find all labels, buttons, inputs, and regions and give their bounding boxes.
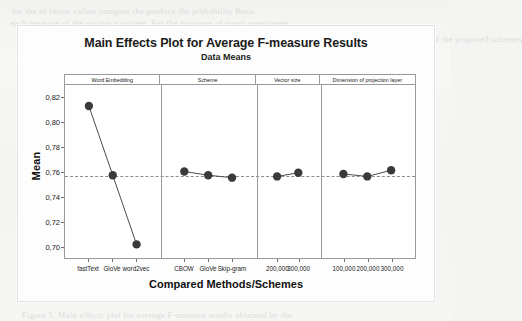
y-tick-mark	[61, 97, 64, 98]
panel-divider-2	[321, 85, 322, 258]
x-tick-mark	[208, 259, 209, 262]
x-tick-label: fastText	[77, 265, 99, 272]
data-point	[387, 166, 395, 174]
x-tick-mark	[299, 259, 300, 262]
x-tick-mark	[277, 259, 278, 262]
panel-header-label: Vector size	[274, 77, 300, 83]
y-tick-mark	[61, 197, 64, 198]
data-point	[132, 240, 140, 248]
chart-title: Main Effects Plot for Average F-measure …	[18, 36, 434, 50]
y-tick-mark	[61, 222, 64, 223]
y-axis-label: Mean	[30, 152, 42, 181]
data-point	[339, 170, 347, 178]
y-tick-mark	[61, 247, 64, 248]
data-point	[228, 174, 236, 182]
panel-header-label: Scheme	[198, 77, 218, 83]
x-tick-label: 300,000	[381, 265, 404, 272]
x-tick-mark	[88, 259, 89, 262]
x-tick-mark	[392, 259, 393, 262]
data-point	[204, 171, 212, 179]
x-tick-label: 200,000	[357, 265, 380, 272]
panel-divider-0	[161, 85, 162, 258]
panel-header-label: Dimension of projection layer	[333, 77, 403, 83]
data-point	[294, 169, 302, 177]
x-tick-label: CBOW	[174, 265, 194, 272]
panel-header-3: Dimension of projection layer	[320, 75, 415, 84]
x-tick-mark	[112, 259, 113, 262]
figure-card: Main Effects Plot for Average F-measure …	[17, 25, 435, 302]
panel-header-label: Word Embedding	[91, 77, 133, 83]
x-tick-label: Skip-gram	[218, 265, 247, 272]
data-point	[363, 172, 371, 180]
panel-header-1: Scheme	[160, 75, 255, 84]
x-tick-mark	[136, 259, 137, 262]
panel-header-2: Vector size	[256, 75, 320, 84]
x-axis-label: Compared Methods/Schemes	[18, 278, 434, 290]
y-tick-label: 0,74	[45, 192, 60, 201]
plot-area: Word EmbeddingSchemeVector sizeDimension…	[64, 74, 416, 259]
data-point	[273, 172, 281, 180]
x-tick-mark	[368, 259, 369, 262]
x-tick-label: 100,000	[333, 265, 356, 272]
data-point	[85, 102, 93, 110]
bleed-text-6: Figure 5. Main effects plot for average …	[22, 310, 292, 320]
x-tick-label: GloVe	[103, 265, 120, 272]
x-tick-label: 300,000	[287, 265, 310, 272]
x-tick-label: 200,000	[266, 265, 289, 272]
series-lines-and-markers	[65, 85, 415, 258]
y-tick-label: 0,78	[45, 143, 60, 152]
y-tick-label: 0,72	[45, 217, 60, 226]
chart-subtitle: Data Means	[18, 52, 434, 62]
x-tick-label: GloVe	[199, 265, 216, 272]
panel-header-band: Word EmbeddingSchemeVector sizeDimension…	[64, 74, 416, 85]
panel-divider-1	[257, 85, 258, 258]
panel-header-0: Word Embedding	[65, 75, 160, 84]
y-tick-label: 0,70	[45, 242, 60, 251]
data-point	[180, 167, 188, 175]
bleed-text-0: for the of factor values compare the pro…	[12, 6, 256, 16]
y-tick-label: 0,76	[45, 168, 60, 177]
x-tick-mark	[232, 259, 233, 262]
y-tick-mark	[61, 122, 64, 123]
y-tick-label: 0,80	[45, 118, 60, 127]
x-tick-mark	[184, 259, 185, 262]
x-tick-mark	[344, 259, 345, 262]
panel-plot-region	[64, 85, 416, 259]
y-tick-mark	[61, 147, 64, 148]
y-tick-mark	[61, 172, 64, 173]
data-point	[109, 171, 117, 179]
x-tick-label: word2vec	[123, 265, 150, 272]
y-tick-label: 0,82	[45, 93, 60, 102]
